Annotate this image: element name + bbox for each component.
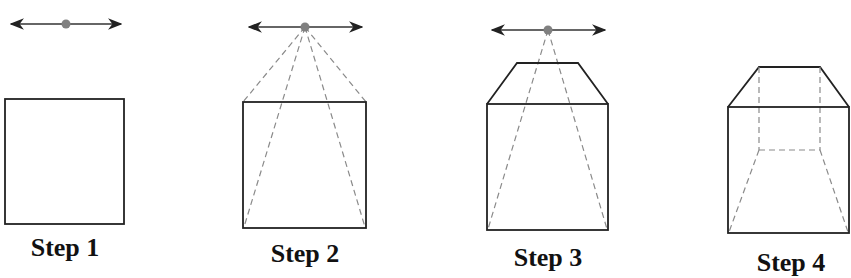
front-square <box>728 107 849 233</box>
step-4: Step 4 <box>728 67 849 277</box>
step-3: Step 3 <box>487 26 608 273</box>
top-face <box>487 63 608 104</box>
step-2: Step 2 <box>243 23 366 269</box>
guide-line <box>548 30 607 229</box>
step-label: Step 3 <box>514 243 583 272</box>
vanishing-point <box>544 26 553 35</box>
vanishing-point <box>301 23 310 32</box>
step-label: Step 2 <box>271 239 340 268</box>
front-square <box>243 102 366 228</box>
top-face <box>728 67 849 107</box>
step-label: Step 1 <box>31 233 100 262</box>
guide-line <box>305 27 366 102</box>
guide-line <box>244 27 305 227</box>
front-square <box>5 99 124 224</box>
step-label: Step 4 <box>757 248 826 277</box>
hidden-edge <box>729 150 759 232</box>
front-square <box>487 104 608 230</box>
guide-line <box>243 27 305 102</box>
perspective-diagram: Step 1 Step 2 Step 3 Step 4 <box>0 0 851 278</box>
guide-line <box>305 27 365 227</box>
hidden-edge <box>820 150 848 232</box>
vanishing-point <box>62 20 71 29</box>
guide-line <box>488 30 548 229</box>
step-1: Step 1 <box>5 20 124 263</box>
